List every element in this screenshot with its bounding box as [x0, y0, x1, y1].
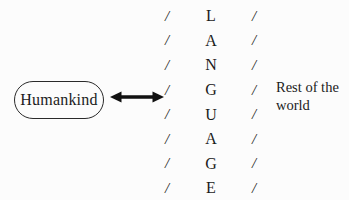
humankind-label: Humankind	[20, 91, 97, 109]
left-slash: /	[148, 155, 186, 172]
right-slash: /	[236, 82, 272, 99]
language-letter: L	[186, 7, 236, 25]
diagram-canvas: Humankind / L / / A / / N / / G / / U	[0, 0, 349, 200]
left-slash: /	[148, 180, 186, 197]
right-slash: /	[236, 131, 272, 148]
left-slash: /	[148, 82, 186, 99]
humankind-node: Humankind	[14, 81, 104, 119]
right-slash: /	[236, 180, 272, 197]
right-slash: /	[236, 32, 272, 49]
language-letter: A	[186, 32, 236, 50]
language-letter: E	[186, 179, 236, 197]
left-slash: /	[148, 106, 186, 123]
rest-of-world-line1: Rest of the	[276, 78, 348, 96]
language-letter: A	[186, 130, 236, 148]
rest-of-world-label: Rest of the world	[276, 78, 348, 114]
language-letter: G	[186, 81, 236, 99]
left-slash: /	[148, 8, 186, 25]
language-letter: N	[186, 56, 236, 74]
left-slash: /	[148, 57, 186, 74]
language-row: / E /	[148, 176, 272, 200]
language-letter: G	[186, 155, 236, 173]
language-row: / U /	[148, 102, 272, 127]
right-slash: /	[236, 106, 272, 123]
left-slash: /	[148, 131, 186, 148]
language-letter: U	[186, 106, 236, 124]
language-row: / A /	[148, 127, 272, 152]
language-row: / G /	[148, 152, 272, 177]
language-row: / L /	[148, 4, 272, 29]
rest-of-world-line2: world	[276, 96, 348, 114]
language-row: / N /	[148, 53, 272, 78]
left-slash: /	[148, 32, 186, 49]
right-slash: /	[236, 8, 272, 25]
language-row: / G /	[148, 78, 272, 103]
right-slash: /	[236, 57, 272, 74]
right-slash: /	[236, 155, 272, 172]
language-row: / A /	[148, 29, 272, 54]
language-barrier-column: / L / / A / / N / / G / / U / / A /	[148, 4, 272, 200]
